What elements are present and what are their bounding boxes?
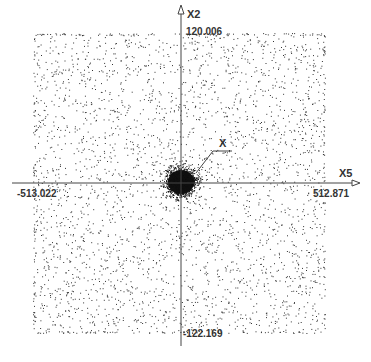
x-axis-name: X5 (339, 167, 352, 179)
y-axis-arrow-icon (178, 5, 184, 14)
annotation-label: X (219, 137, 226, 149)
x-min-label: -513.022 (17, 188, 56, 199)
x-axis-arrow-icon (352, 180, 360, 186)
x-max-label: 512.871 (313, 188, 349, 199)
scatter-plot (0, 0, 371, 362)
y-axis-name: X2 (187, 8, 200, 20)
y-min-label: -122.169 (183, 328, 222, 339)
y-max-label: 120.006 (186, 26, 222, 37)
